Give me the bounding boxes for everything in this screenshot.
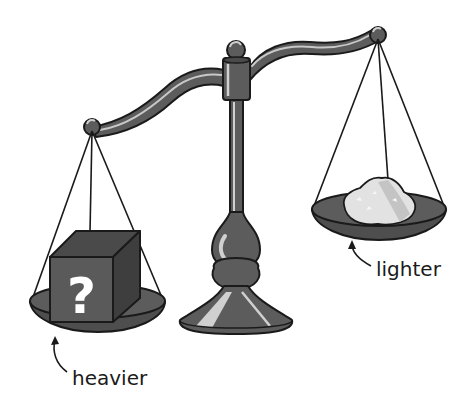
- arrow-up-icon: [51, 336, 59, 345]
- heavier-label: heavier: [72, 366, 148, 390]
- scale-base: [180, 286, 292, 334]
- powder-pile: [344, 178, 416, 225]
- lighter-annotation: lighter: [348, 240, 442, 281]
- post-bulbs: [212, 212, 260, 290]
- arrow-up-icon: [348, 240, 356, 249]
- lighter-label: lighter: [376, 257, 442, 281]
- balance-scale-illustration: ? heavier lighter: [0, 0, 472, 408]
- center-post: [223, 41, 250, 218]
- heavier-annotation: heavier: [51, 336, 148, 390]
- mystery-cube: ?: [50, 231, 140, 325]
- question-mark-icon: ?: [67, 267, 96, 325]
